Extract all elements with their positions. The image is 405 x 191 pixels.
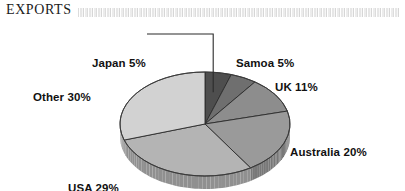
pie-slice-side-usa xyxy=(184,174,188,188)
pie-slice-side-australia xyxy=(259,163,261,177)
slice-label-other: Other 30% xyxy=(33,91,91,103)
pie-slice-side-australia xyxy=(255,165,257,179)
pie-slice-side-usa xyxy=(244,169,247,183)
pie-slice-side-usa xyxy=(187,175,191,188)
pie-slice-side-usa xyxy=(173,172,177,186)
pie-chart-svg xyxy=(0,24,405,191)
pie-slice-side-australia xyxy=(274,153,276,167)
pie-slice-side-usa xyxy=(214,175,218,188)
pie-slice-side-australia xyxy=(283,143,284,158)
slice-label-australia: Australia 20% xyxy=(290,146,367,158)
pie-slice-side-australia xyxy=(282,145,283,159)
pie-slices-group xyxy=(120,72,290,189)
pie-slice-side-australia xyxy=(261,162,263,176)
slice-label-samoa: Samoa 5% xyxy=(236,57,294,69)
pie-slice-side-australia xyxy=(263,161,265,175)
pie-slice-side-usa xyxy=(233,172,237,186)
pie-slice-side-usa xyxy=(139,157,141,172)
header-decorative-rule xyxy=(78,8,400,17)
pie-slice-side-usa xyxy=(150,163,153,178)
pie-slice-side-australia xyxy=(278,149,279,163)
pie-slice-side-usa xyxy=(136,155,138,170)
pie-slice-side-usa xyxy=(166,170,169,184)
pie-slice-side-usa xyxy=(191,175,195,188)
page-title: EXPORTS xyxy=(6,2,72,18)
pie-slice-side-usa xyxy=(153,165,156,179)
slice-label-usa: USA 29% xyxy=(68,182,119,191)
pie-slice-side-usa xyxy=(195,176,199,189)
pie-slice-side-usa xyxy=(237,171,241,185)
pie-slice-side-usa xyxy=(144,160,147,175)
pie-slice-side-australia xyxy=(284,142,285,157)
figure-header: EXPORTS xyxy=(0,0,405,24)
pie-slice-side-usa xyxy=(222,174,226,188)
pie-slice-side-australia xyxy=(270,156,272,170)
pie-slice-side-usa xyxy=(162,169,165,183)
pie-slice-side-usa xyxy=(199,176,203,189)
pie-slice-side-australia xyxy=(253,166,255,180)
pie-slice-side-australia xyxy=(257,164,259,178)
pie-slice-side-australia xyxy=(277,150,278,164)
pie-slice-side-usa xyxy=(226,174,230,188)
pie-slice-side-usa xyxy=(207,176,211,189)
pie-slice-side-usa xyxy=(180,174,184,188)
pie-slice-side-australia xyxy=(269,157,271,171)
pie-slice-side-australia xyxy=(272,155,274,169)
pie-slice-side-usa xyxy=(218,175,222,188)
pie-slice-side-usa xyxy=(147,162,150,177)
pie-slice-side-usa xyxy=(176,173,180,187)
pie-slice-side-usa xyxy=(210,176,214,189)
pie-slice-side-usa xyxy=(156,166,159,180)
exports-pie-chart-figure: EXPORTS Japan 5% Samoa 5% UK 11% Austral… xyxy=(0,0,405,191)
pie-slice-side-usa xyxy=(229,173,233,187)
slice-label-uk: UK 11% xyxy=(275,81,318,93)
pie-slice-side-australia xyxy=(265,160,267,174)
slice-label-japan: Japan 5% xyxy=(92,57,146,69)
pie-slice-side-usa xyxy=(159,168,162,182)
pie-chart-area: Japan 5% Samoa 5% UK 11% Australia 20% U… xyxy=(0,24,405,191)
pie-slice-side-usa xyxy=(169,171,173,185)
pie-slice-side-australia xyxy=(279,148,280,162)
pie-slice-side-usa xyxy=(141,158,144,173)
pie-slice-side-usa xyxy=(247,168,250,182)
pie-slice-side-australia xyxy=(281,146,282,160)
pie-slice-side-australia xyxy=(251,167,253,181)
pie-slice-side-usa xyxy=(240,170,243,184)
pie-slice-side-australia xyxy=(275,152,276,166)
pie-slice-side-usa xyxy=(203,176,207,189)
pie-slice-side-australia xyxy=(267,158,269,172)
